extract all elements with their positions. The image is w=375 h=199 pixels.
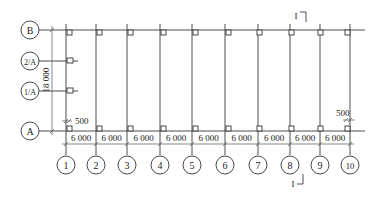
svg-text:6 000: 6 000 <box>71 133 92 143</box>
row-axis-bubble-1a: 1/A <box>21 82 39 100</box>
svg-text:6 000: 6 000 <box>264 133 285 143</box>
svg-text:6 000: 6 000 <box>198 133 219 143</box>
row-axis-bubble-b: B <box>21 21 39 39</box>
column-axis-bubble-9: 9 <box>311 156 329 174</box>
svg-text:5: 5 <box>190 160 195 171</box>
column-axis-bubble-2: 2 <box>87 156 105 174</box>
svg-text:18 000: 18 000 <box>41 67 51 92</box>
svg-text:4: 4 <box>158 160 163 171</box>
column-axis-bubble-4: 4 <box>151 156 169 174</box>
svg-text:6 000: 6 000 <box>133 133 154 143</box>
svg-text:2: 2 <box>94 160 99 171</box>
svg-text:7: 7 <box>256 160 261 171</box>
column-axis-bubble-1: 1 <box>57 156 75 174</box>
section-mark-top: I <box>295 11 307 22</box>
svg-text:6 000: 6 000 <box>231 133 252 143</box>
offset-right-dimension: 500 <box>336 108 355 122</box>
bay-dimension-labels: 6 000 6 000 6 000 6 000 6 000 6 000 6 00… <box>71 133 346 143</box>
svg-text:6 000: 6 000 <box>101 133 122 143</box>
svg-text:1: 1 <box>64 160 69 171</box>
column-2a <box>67 58 73 63</box>
column-axis-bubble-10: 10 <box>341 156 359 174</box>
column-axis-bubbles: 1 2 3 4 5 6 7 8 9 10 <box>57 156 359 174</box>
grid-plan-drawing: B 2/A 1/A A 18 000 500 500 <box>0 0 375 199</box>
svg-text:2/A: 2/A <box>24 58 36 67</box>
svg-text:I: I <box>292 179 295 189</box>
column-axis-bubble-3: 3 <box>118 156 136 174</box>
svg-text:6: 6 <box>223 160 228 171</box>
section-mark-bottom: I <box>292 174 304 189</box>
svg-text:6 000: 6 000 <box>166 133 187 143</box>
column-axis-bubble-7: 7 <box>249 156 267 174</box>
svg-text:A: A <box>26 126 34 137</box>
svg-text:B: B <box>27 25 34 36</box>
span-dimension: 18 000 <box>41 26 54 135</box>
svg-text:8: 8 <box>288 160 293 171</box>
svg-text:3: 3 <box>125 160 130 171</box>
column-1a <box>67 88 73 93</box>
svg-text:500: 500 <box>75 116 89 126</box>
column-axis-bubble-6: 6 <box>216 156 234 174</box>
svg-text:1/A: 1/A <box>24 88 36 97</box>
svg-text:500: 500 <box>336 108 350 118</box>
svg-text:10: 10 <box>346 161 355 171</box>
svg-text:9: 9 <box>318 160 323 171</box>
row-axis-bubble-a: A <box>21 122 39 140</box>
column-axis-bubble-8: 8 <box>281 156 299 174</box>
columns-row-a <box>67 126 350 131</box>
svg-text:6 000: 6 000 <box>325 133 346 143</box>
row-axis-bubble-2a: 2/A <box>21 52 39 70</box>
column-axis-bubble-5: 5 <box>183 156 201 174</box>
svg-text:I: I <box>295 11 298 21</box>
svg-text:6 000: 6 000 <box>295 133 316 143</box>
columns-row-b <box>67 30 350 35</box>
